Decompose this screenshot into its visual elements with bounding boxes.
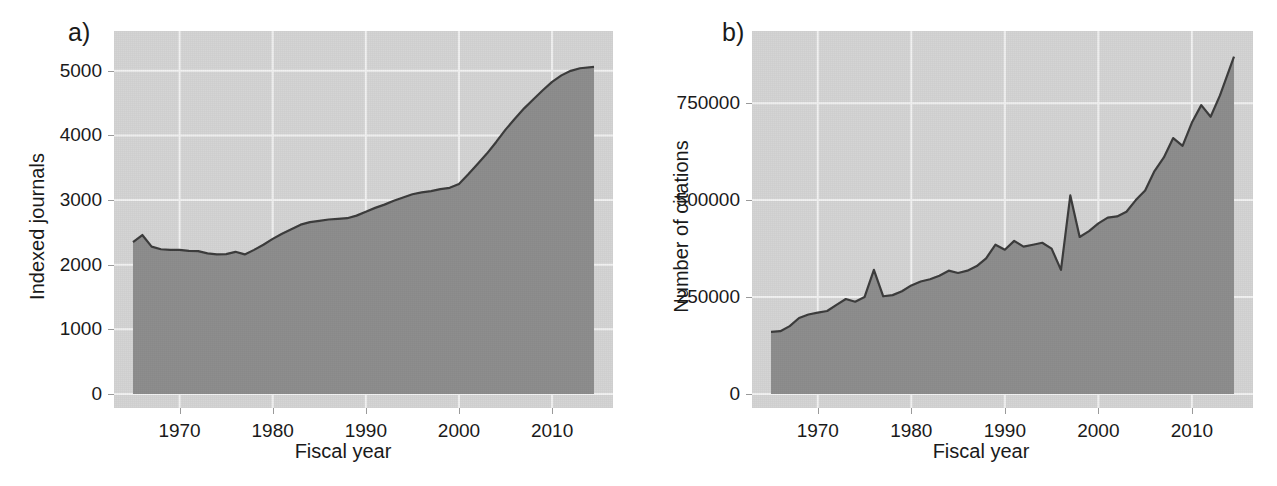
y-tick-mark bbox=[108, 71, 114, 72]
y-tick-mark bbox=[746, 297, 752, 298]
y-tick-label: 0 bbox=[2, 383, 102, 405]
y-tick-label: 4000 bbox=[2, 124, 102, 146]
y-tick-label: 750000 bbox=[640, 92, 740, 114]
y-tick-label: 1000 bbox=[2, 318, 102, 340]
y-tick-mark bbox=[746, 103, 752, 104]
x-tick-label: 1970 bbox=[158, 420, 200, 442]
panel-a-tag: a) bbox=[68, 18, 90, 47]
x-tick-label: 2000 bbox=[438, 420, 480, 442]
y-tick-mark bbox=[108, 135, 114, 136]
x-tick-mark bbox=[1098, 408, 1099, 414]
y-tick-label: 3000 bbox=[2, 189, 102, 211]
x-tick-label: 1990 bbox=[984, 420, 1026, 442]
panel-a-x-axis-title: Fiscal year bbox=[263, 440, 423, 463]
y-tick-label: 2000 bbox=[2, 254, 102, 276]
x-tick-mark bbox=[180, 408, 181, 414]
x-tick-label: 1980 bbox=[252, 420, 294, 442]
figure-root: a) Indexed journals Fiscal year 01000200… bbox=[0, 0, 1277, 486]
x-tick-label: 1990 bbox=[345, 420, 387, 442]
y-tick-label: 250000 bbox=[640, 286, 740, 308]
panel-b-y-axis-title: Number of citations bbox=[670, 107, 693, 347]
y-tick-mark bbox=[746, 200, 752, 201]
x-tick-mark bbox=[818, 408, 819, 414]
y-tick-mark bbox=[108, 265, 114, 266]
x-tick-label: 1980 bbox=[890, 420, 932, 442]
chart-panel-b: b) Number of citations Fiscal year 02500… bbox=[638, 0, 1276, 486]
panel-b-tag: b) bbox=[722, 18, 744, 47]
x-tick-mark bbox=[459, 408, 460, 414]
panel-b-plot-area bbox=[752, 31, 1253, 408]
x-tick-label: 2000 bbox=[1077, 420, 1119, 442]
x-tick-mark bbox=[366, 408, 367, 414]
panel-a-plot-svg bbox=[114, 31, 613, 408]
y-tick-mark bbox=[108, 394, 114, 395]
panel-a-plot-area bbox=[114, 31, 613, 408]
panel-b-x-axis-title: Fiscal year bbox=[901, 440, 1061, 463]
x-tick-mark bbox=[552, 408, 553, 414]
x-tick-mark bbox=[911, 408, 912, 414]
panel-b-plot-svg bbox=[752, 31, 1253, 408]
x-tick-label: 2010 bbox=[1171, 420, 1213, 442]
x-tick-mark bbox=[1005, 408, 1006, 414]
x-tick-mark bbox=[1192, 408, 1193, 414]
y-tick-mark bbox=[108, 329, 114, 330]
panel-a-y-axis-title: Indexed journals bbox=[26, 127, 49, 327]
y-tick-mark bbox=[746, 394, 752, 395]
x-tick-mark bbox=[273, 408, 274, 414]
y-tick-label: 0 bbox=[640, 383, 740, 405]
y-tick-mark bbox=[108, 200, 114, 201]
x-tick-label: 2010 bbox=[531, 420, 573, 442]
y-tick-label: 500000 bbox=[640, 189, 740, 211]
x-tick-label: 1970 bbox=[797, 420, 839, 442]
y-tick-label: 5000 bbox=[2, 60, 102, 82]
chart-panel-a: a) Indexed journals Fiscal year 01000200… bbox=[0, 0, 638, 486]
